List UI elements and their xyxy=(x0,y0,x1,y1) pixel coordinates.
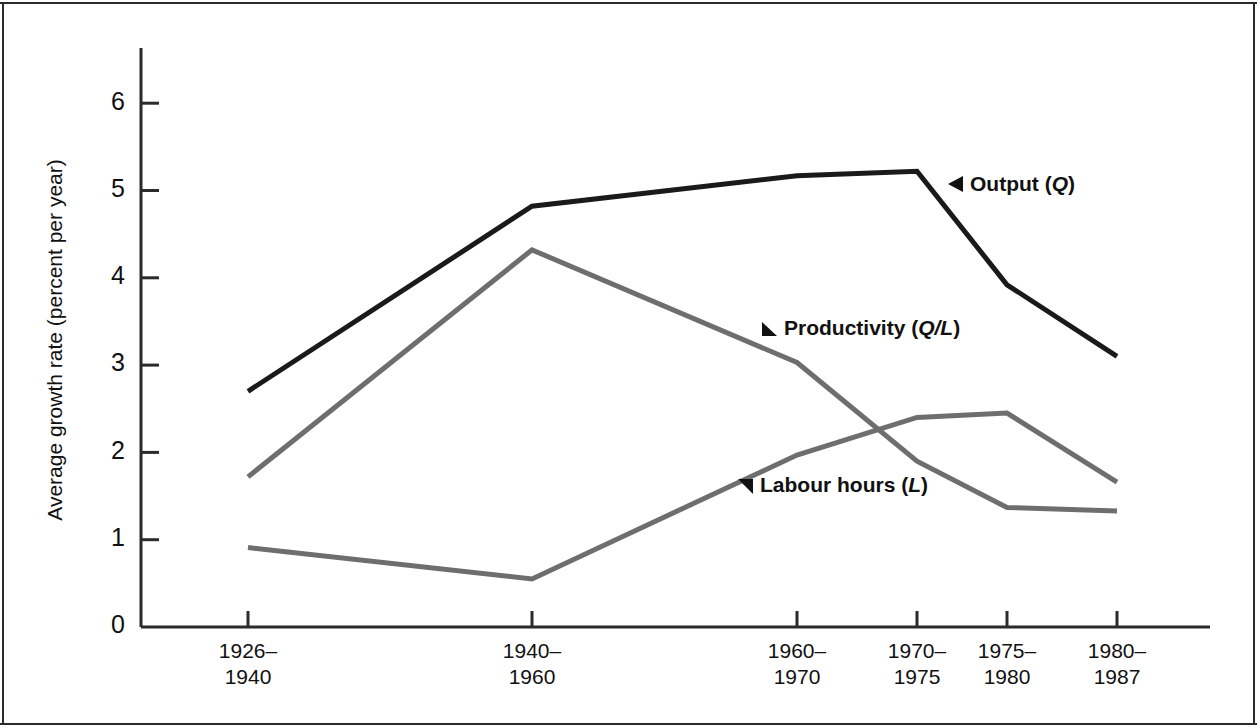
y-tick-label-1: 1 xyxy=(85,523,125,552)
series-line-productivity xyxy=(248,250,1117,511)
x-tick-label-2-line1: 1960– xyxy=(732,638,862,664)
x-tick-label-2: 1960– 1970 xyxy=(732,638,862,691)
y-tick-label-3: 3 xyxy=(85,348,125,377)
annotation-productivity-text: Productivity (Q/L) xyxy=(784,316,960,339)
y-tick-label-4: 4 xyxy=(85,261,125,290)
series-line-output xyxy=(248,171,1117,391)
up-left-triangle-icon xyxy=(762,322,777,336)
y-tick-label-5: 5 xyxy=(85,174,125,203)
line-chart-plot xyxy=(0,0,1257,727)
y-tick-label-6: 6 xyxy=(85,87,125,116)
data-series-group xyxy=(248,171,1117,579)
annotation-labour-text: Labour hours (L) xyxy=(760,473,928,496)
y-tick-label-0: 0 xyxy=(85,610,125,639)
x-tick-label-1-line1: 1940– xyxy=(467,638,597,664)
x-tick-label-5-line2: 1987 xyxy=(1052,664,1182,690)
down-left-triangle-icon xyxy=(738,479,753,494)
left-triangle-icon xyxy=(948,176,963,192)
x-tick-label-2-line2: 1970 xyxy=(732,664,862,690)
figure-container: Average growth rate (percent per year) 6… xyxy=(0,0,1257,727)
annotation-output: Output (Q) xyxy=(948,172,1075,196)
x-tick-label-5-line1: 1980– xyxy=(1052,638,1182,664)
x-tick-label-1: 1940– 1960 xyxy=(467,638,597,691)
x-tick-label-5: 1980– 1987 xyxy=(1052,638,1182,691)
annotation-productivity: Productivity (Q/L) xyxy=(762,316,960,340)
x-tick-label-1-line2: 1960 xyxy=(467,664,597,690)
x-tick-label-0-line2: 1940 xyxy=(183,664,313,690)
x-axis-ticks xyxy=(248,611,1117,627)
x-tick-label-0-line1: 1926– xyxy=(183,638,313,664)
annotation-labour-hours: Labour hours (L) xyxy=(738,473,928,497)
annotation-output-text: Output (Q) xyxy=(970,172,1075,195)
y-axis-ticks xyxy=(141,103,159,540)
y-tick-label-2: 2 xyxy=(85,436,125,465)
x-tick-label-0: 1926– 1940 xyxy=(183,638,313,691)
